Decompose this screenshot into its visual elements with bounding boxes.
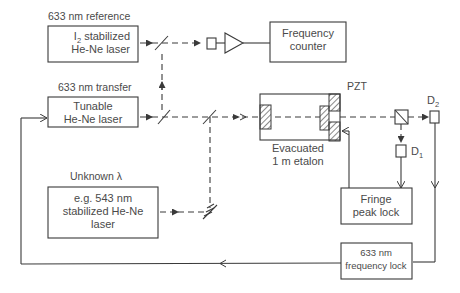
- detector-d1-icon: [396, 145, 406, 157]
- optical-setup-diagram: 633 nm reference I2 stabilized He-Ne las…: [0, 0, 460, 293]
- beam-splitter-2-icon: [158, 110, 170, 124]
- pzt-label: PZT: [347, 80, 367, 92]
- reference-laser-heading: 633 nm reference: [48, 10, 130, 22]
- svg-text:Frequency: Frequency: [282, 27, 334, 39]
- svg-text:laser: laser: [91, 218, 115, 230]
- feedback-line: [21, 263, 341, 264]
- svg-text:633 nm: 633 nm: [360, 247, 392, 258]
- svg-text:stabilized He-Ne: stabilized He-Ne: [63, 205, 144, 217]
- svg-text:counter: counter: [290, 40, 327, 52]
- transfer-laser-heading: 633 nm transfer: [58, 81, 132, 93]
- transfer-laser-box: Tunable He-Ne laser: [48, 97, 138, 127]
- svg-text:Fringe: Fringe: [360, 193, 391, 205]
- etalon-label-line2: 1 m etalon: [272, 155, 323, 167]
- svg-text:He-Ne laser: He-Ne laser: [64, 113, 123, 125]
- lens-icon: [233, 114, 240, 120]
- etalon-label-line1: Evacuated: [272, 142, 324, 154]
- detector-d2-icon: [430, 111, 439, 123]
- svg-text:frequency lock: frequency lock: [345, 260, 407, 271]
- svg-text:peak lock: peak lock: [353, 206, 400, 218]
- unknown-laser-box: e.g. 543 nm stabilized He-Ne laser: [48, 187, 158, 238]
- pzt-lower-icon: [329, 122, 340, 141]
- detector-d2-label: D2: [427, 94, 439, 109]
- polarizing-beam-splitter-icon: [395, 110, 408, 124]
- etalon: PZT Evacuated 1 m etalon: [260, 80, 367, 167]
- beat-detector-icon: [207, 38, 216, 49]
- svg-text:e.g. 543 nm: e.g. 543 nm: [74, 192, 132, 204]
- frequency-counter-box: Frequency counter: [270, 22, 346, 62]
- fringe-peak-lock-box: Fringe peak lock: [341, 188, 412, 224]
- reference-laser-line2: He-Ne laser: [71, 43, 130, 55]
- detector-d1-label: D1: [411, 145, 423, 160]
- amplifier-icon: [225, 33, 243, 53]
- frequency-lock-box: 633 nm frequency lock: [341, 243, 412, 279]
- pzt-upper-icon: [329, 94, 340, 111]
- svg-text:Tunable: Tunable: [73, 100, 112, 112]
- reference-laser-box: I2 stabilized He-Ne laser: [48, 26, 138, 62]
- dichroic-mirror-icon: [203, 204, 217, 219]
- unknown-laser-heading: Unknown λ: [70, 170, 123, 182]
